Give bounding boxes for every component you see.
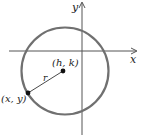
y-axis-label: y: [71, 1, 79, 14]
circle-diagram: y x (h, k) (x, y) r: [0, 0, 144, 140]
x-axis-label: x: [130, 53, 137, 66]
center-point: [61, 69, 66, 74]
center-point-label: (h, k): [52, 57, 79, 68]
y-axis: [79, 2, 85, 135]
radius-label: r: [43, 73, 48, 83]
point-on-circle-label: (x, y): [1, 93, 27, 104]
